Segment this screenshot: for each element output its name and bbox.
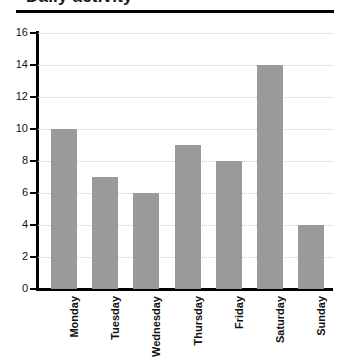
x-axis-label-thursday: Thursday [193, 296, 204, 346]
y-axis-label: 2 [22, 251, 28, 262]
y-axis-label: 10 [16, 123, 28, 134]
y-axis-tick [30, 224, 37, 226]
gridline [38, 97, 333, 98]
gridline [38, 129, 333, 130]
bar-chart-figure: Daily activity 0246810121416 MondayTuesd… [0, 0, 344, 360]
y-axis-label: 12 [16, 91, 28, 102]
x-axis-label-saturday: Saturday [275, 296, 286, 343]
y-axis-label: 8 [22, 155, 28, 166]
header-divider-rule [16, 10, 334, 13]
bar-monday[interactable] [51, 129, 77, 289]
gridline [38, 65, 333, 66]
y-axis-label: 14 [16, 59, 28, 70]
gridline [38, 33, 333, 34]
x-axis-label-sunday: Sunday [316, 296, 327, 336]
bar-tuesday[interactable] [92, 177, 118, 289]
y-axis-label: 6 [22, 187, 28, 198]
bar-sunday[interactable] [298, 225, 324, 289]
y-axis-label: 4 [22, 219, 28, 230]
x-axis-label-monday: Monday [69, 296, 80, 338]
y-axis-label: 0 [22, 283, 28, 294]
y-axis-tick [30, 160, 37, 162]
plot-area [38, 33, 333, 289]
x-axis-label-wednesday: Wednesday [151, 296, 162, 357]
y-axis-tick [30, 128, 37, 130]
y-axis-tick [30, 64, 37, 66]
bar-thursday[interactable] [175, 145, 201, 289]
chart-title-cropped: Daily activity [0, 0, 344, 9]
y-axis-label: 16 [16, 27, 28, 38]
x-axis-label-friday: Friday [234, 296, 245, 329]
x-axis-label-tuesday: Tuesday [110, 296, 121, 340]
bar-friday[interactable] [216, 161, 242, 289]
y-axis-tick [30, 32, 37, 34]
y-axis-tick [30, 288, 37, 290]
bar-saturday[interactable] [257, 65, 283, 289]
y-axis-tick [30, 256, 37, 258]
y-axis-tick [30, 192, 37, 194]
y-axis-tick [30, 96, 37, 98]
bar-wednesday[interactable] [133, 193, 159, 289]
